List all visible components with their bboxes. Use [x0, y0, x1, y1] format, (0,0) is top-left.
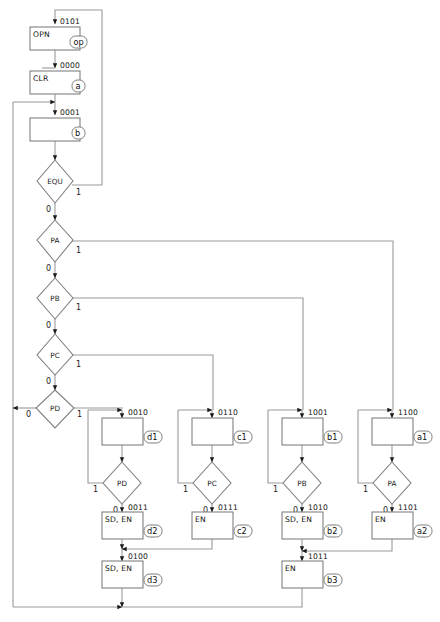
state-tag-d3: d3: [144, 574, 162, 586]
state-code-c2: 0111: [218, 503, 238, 512]
state-tag-a2: a2: [414, 525, 432, 537]
state-box-d1[interactable]: [102, 418, 143, 445]
decision-pd-true-label: 1: [77, 410, 82, 419]
state-box-c1[interactable]: [192, 418, 233, 445]
state-tag-a1-label: a1: [417, 432, 427, 442]
decision-pb-false-label: 0: [46, 321, 51, 330]
edge-pc-true-to-c1: [72, 355, 213, 410]
decision-pd-d-true-label: 1: [93, 485, 98, 494]
state-code-d3: 0100: [128, 552, 148, 561]
state-tag-op-label: op: [74, 37, 84, 47]
state-tag-c1-label: c1: [237, 432, 247, 442]
decision-equ-label: EQU: [47, 177, 62, 186]
state-code-d1: 0010: [128, 408, 148, 417]
decision-pc-c-true-label: 1: [183, 485, 188, 494]
state-tag-a2-label: a2: [417, 526, 427, 536]
state-output-op: OPN: [33, 30, 50, 39]
state-tag-d1-label: d1: [147, 432, 157, 442]
state-output-a2: EN: [375, 515, 386, 524]
decision-pa-a-label: PA: [388, 479, 397, 488]
decision-pd-false-label: 0: [26, 410, 31, 419]
state-output-b2: SD, EN: [285, 515, 312, 524]
state-output-d3: SD, EN: [105, 564, 132, 573]
state-tag-b2-label: b2: [327, 526, 337, 536]
decision-pa-label: PA: [51, 236, 60, 245]
state-code-op: 0101: [60, 17, 80, 26]
flowchart-svg: OPN 0101 op CLR 0000 a 0001 b EQU 0 1 PA…: [0, 0, 440, 622]
state-tag-a: a: [72, 80, 85, 92]
decision-pb-label: PB: [50, 294, 59, 303]
edge-a2-to-b-merge: [302, 539, 392, 551]
state-output-c2: EN: [195, 515, 206, 524]
state-code-a2: 1101: [398, 503, 418, 512]
state-tag-c2-label: c2: [237, 526, 247, 536]
state-tag-b3-label: b3: [327, 575, 337, 585]
state-tag-d1: d1: [144, 431, 162, 443]
decision-pc-c-label: PC: [207, 479, 216, 488]
state-tag-c1: c1: [234, 431, 252, 443]
state-code-b3: 1011: [308, 552, 328, 561]
state-tag-d2: d2: [144, 525, 162, 537]
state-tag-d2-label: d2: [147, 526, 157, 536]
state-tag-b2: b2: [324, 525, 342, 537]
decision-pd-d-label: PD: [117, 479, 127, 488]
state-output-a: CLR: [33, 74, 49, 83]
state-output-d2: SD, EN: [105, 515, 132, 524]
decision-equ-true-label: 1: [76, 188, 81, 197]
state-tag-b: b: [72, 127, 85, 139]
state-tag-c2: c2: [234, 525, 252, 537]
state-code-c1: 0110: [218, 408, 238, 417]
state-tag-b1-label: b1: [327, 432, 337, 442]
state-tag-op: op: [70, 36, 87, 48]
decision-pa-false-label: 0: [46, 264, 51, 273]
state-tag-a1: a1: [414, 431, 432, 443]
state-code-b1: 1001: [308, 408, 328, 417]
edge-pa-true-to-a1: [72, 241, 393, 410]
edge-b3-to-bottom-return: [122, 588, 302, 607]
state-code-d2: 0011: [128, 503, 148, 512]
state-code-b: 0001: [60, 108, 80, 117]
state-box-a1[interactable]: [372, 418, 413, 445]
decision-equ-false-label: 0: [46, 205, 51, 214]
decision-pc-label: PC: [50, 351, 59, 360]
decision-pd-label: PD: [50, 404, 60, 413]
state-output-b3: EN: [285, 564, 296, 573]
decision-pc-false-label: 0: [46, 377, 51, 386]
state-tag-b1: b1: [324, 431, 342, 443]
decision-pa-a-true-label: 1: [363, 485, 368, 494]
state-code-a: 0000: [60, 61, 80, 70]
edge-c2-to-d-merge: [122, 539, 212, 549]
decision-pb-true-label: 1: [76, 303, 81, 312]
decision-pc-true-label: 1: [76, 360, 81, 369]
state-tag-a-label: a: [76, 81, 81, 91]
state-tag-d3-label: d3: [147, 575, 157, 585]
decision-pb-b-label: PB: [297, 479, 306, 488]
state-code-b2: 1010: [308, 503, 328, 512]
state-box-b1[interactable]: [282, 418, 323, 445]
flowchart-canvas: OPN 0101 op CLR 0000 a 0001 b EQU 0 1 PA…: [0, 0, 440, 622]
edge-pb-true-to-b1: [72, 298, 303, 410]
state-code-a1: 1100: [398, 408, 418, 417]
decision-pb-b-true-label: 1: [273, 485, 278, 494]
state-tag-b-label: b: [75, 128, 80, 138]
state-tag-b3: b3: [324, 574, 342, 586]
decision-pa-true-label: 1: [76, 246, 81, 255]
